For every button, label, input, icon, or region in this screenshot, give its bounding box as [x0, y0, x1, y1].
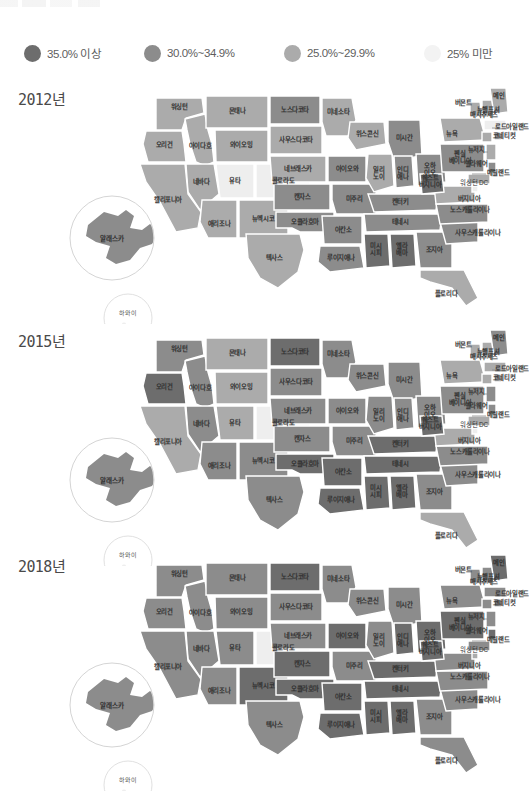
state-pa [440, 611, 484, 639]
state-mt [206, 338, 268, 370]
state-de [488, 404, 496, 414]
state-sd [270, 126, 322, 154]
state-pa [440, 144, 484, 172]
state-me [490, 555, 508, 581]
state-ar [322, 683, 362, 711]
map-panel-2012: 2012년 워싱턴오리건아이다호몬태나와이오밍네바다유타콜로라도캘리포니아애리조… [0, 82, 514, 324]
state-me [490, 330, 508, 356]
state-mt [206, 563, 268, 595]
state-al [390, 701, 416, 735]
state-or [143, 131, 186, 162]
legend-label-35-plus: 35.0% 이상 [47, 45, 102, 61]
state-wy [215, 130, 268, 162]
state-in [394, 398, 414, 430]
state-ri [494, 374, 502, 382]
state-wi [348, 364, 386, 392]
state-ks [274, 184, 330, 210]
state-az [200, 442, 237, 480]
state-sd [270, 368, 322, 396]
state-vt [470, 102, 482, 116]
state-tn [364, 681, 442, 699]
state-ne [270, 398, 326, 424]
legend-item-under-25: 25% 미만 [424, 36, 493, 70]
state-ma [484, 120, 506, 130]
state-fl [420, 512, 478, 548]
state-me [490, 88, 508, 114]
state-ny [440, 360, 486, 384]
state-ny [440, 118, 486, 142]
state-tn [364, 214, 442, 232]
state-il [366, 154, 394, 192]
map-panel-2015: 2015년 워싱턴오리건아이다호몬태나와이오밍네바다유타콜로라도캘리포니아애리조… [0, 324, 514, 566]
state-ct [482, 599, 492, 609]
state-fl [420, 737, 478, 773]
cropped-header-strip [0, 0, 120, 7]
state-la [318, 713, 364, 739]
state-tn [364, 456, 442, 474]
legend: 35.0% 이상 30.0%~34.9% 25.0%~29.9% 25% 미만 [0, 36, 514, 70]
state-ky [368, 661, 438, 679]
us-map-2018 [0, 549, 514, 791]
legend-item-30-34: 30.0%~34.9% [144, 36, 235, 70]
state-ma [484, 587, 506, 597]
state-or [143, 373, 186, 404]
state-ar [322, 458, 362, 486]
state-ut [216, 406, 254, 440]
state-ri [494, 599, 502, 607]
state-ne [270, 156, 326, 182]
state-fl [420, 270, 478, 306]
legend-label-under-25: 25% 미만 [447, 45, 493, 61]
state-ut [216, 631, 254, 665]
state-or [143, 598, 186, 629]
state-dc [472, 428, 478, 434]
state-wv [420, 641, 444, 661]
state-wv [420, 174, 444, 194]
legend-swatch-dark [24, 45, 41, 62]
state-wv [420, 416, 444, 436]
state-wi [348, 122, 386, 150]
state-ar [322, 216, 362, 244]
state-az [200, 200, 237, 238]
state-wy [215, 597, 268, 629]
state-label-ak: 알래스카 [100, 233, 124, 243]
state-la [318, 246, 364, 272]
state-ne [270, 623, 326, 649]
state-ma [484, 362, 506, 372]
state-pa [440, 386, 484, 414]
map-panel-2018: 2018년 워싱턴오리건아이다호몬태나와이오밍네바다유타콜로라도캘리포니아애리조… [0, 549, 514, 791]
state-dc [472, 186, 478, 192]
state-ia [328, 398, 366, 424]
state-al [390, 234, 416, 268]
state-md [468, 641, 490, 651]
state-ks [274, 426, 330, 452]
legend-label-30-34: 30.0%~34.9% [167, 47, 235, 59]
state-il [366, 396, 394, 434]
state-ky [368, 436, 438, 454]
state-ut [216, 164, 254, 198]
state-wy [215, 372, 268, 404]
state-vt [470, 344, 482, 358]
legend-swatch-medium [144, 45, 161, 62]
state-de [488, 629, 496, 639]
state-vt [470, 569, 482, 583]
state-label-hi: 하와이 [119, 308, 137, 317]
state-nc [436, 671, 488, 691]
state-sc [440, 464, 478, 486]
state-ny [440, 585, 486, 609]
state-in [394, 623, 414, 655]
state-dc [472, 653, 478, 659]
us-map-2015 [0, 324, 514, 566]
state-al [390, 476, 416, 510]
state-la [318, 488, 364, 514]
state-de [488, 162, 496, 172]
us-map-2012 [0, 82, 514, 324]
state-md [468, 416, 490, 426]
legend-label-25-29: 25.0%~29.9% [307, 47, 375, 59]
legend-item-25-29: 25.0%~29.9% [284, 36, 375, 70]
state-label-ak: 알래스카 [100, 475, 124, 485]
state-il [366, 621, 394, 659]
state-in [394, 156, 414, 188]
state-nc [436, 204, 488, 224]
state-sc [440, 689, 478, 711]
state-ms [364, 476, 390, 510]
